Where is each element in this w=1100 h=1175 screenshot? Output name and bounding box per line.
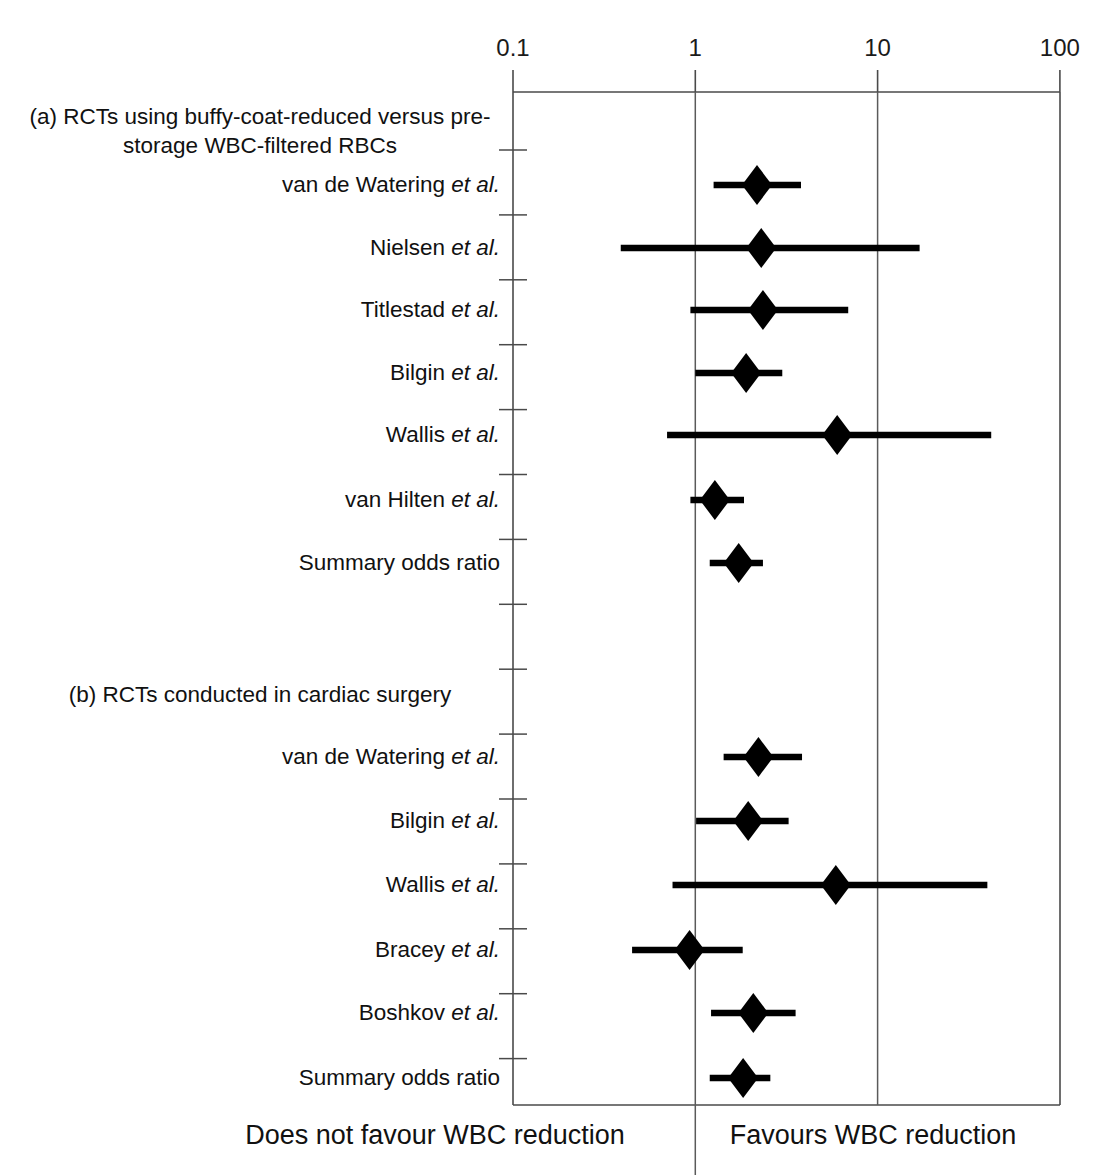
study-name: van de Watering xyxy=(282,172,445,197)
study-diamond xyxy=(743,737,773,777)
section-heading-line1: (b) RCTs conducted in cardiac surgery xyxy=(20,680,500,709)
study-diamond xyxy=(742,165,772,205)
study-suffix: et al. xyxy=(451,297,500,322)
study-suffix: et al. xyxy=(451,422,500,447)
study-label: van de Watering et al. xyxy=(282,171,500,200)
study-label: Bilgin et al. xyxy=(390,359,500,388)
study-label: Wallis et al. xyxy=(386,421,500,450)
summary-diamond xyxy=(728,1058,758,1098)
study-name: Titlestad xyxy=(361,297,445,322)
study-name: Nielsen xyxy=(370,235,445,260)
study-label: Wallis et al. xyxy=(386,871,500,900)
study-name: Bilgin xyxy=(390,360,445,385)
study-suffix: et al. xyxy=(451,172,500,197)
study-label: Boshkov et al. xyxy=(359,999,500,1028)
study-suffix: et al. xyxy=(451,937,500,962)
section-heading-a: (a) RCTs using buffy-coat-reduced versus… xyxy=(20,102,500,161)
footer-label-left: Does not favour WBC reduction xyxy=(245,1120,625,1151)
study-diamond xyxy=(822,415,852,455)
study-name: Wallis xyxy=(386,872,445,897)
study-label: Summary odds ratio xyxy=(299,1064,500,1093)
study-suffix: et al. xyxy=(451,808,500,833)
forest-plot: 0.1110100(a) RCTs using buffy-coat-reduc… xyxy=(0,0,1100,1175)
study-diamond xyxy=(748,290,778,330)
axis-tick-label-100: 100 xyxy=(1040,34,1080,62)
study-label: van de Watering et al. xyxy=(282,743,500,772)
study-label: van Hilten et al. xyxy=(345,486,500,515)
section-heading-line2: storage WBC-filtered RBCs xyxy=(20,131,500,160)
study-label: Bracey et al. xyxy=(375,936,500,965)
section-heading-b: (b) RCTs conducted in cardiac surgery xyxy=(20,680,500,709)
study-diamond xyxy=(733,801,763,841)
study-diamond xyxy=(746,228,776,268)
study-name: Wallis xyxy=(386,422,445,447)
study-suffix: et al. xyxy=(451,1000,500,1025)
study-label: Titlestad et al. xyxy=(361,296,500,325)
study-suffix: et al. xyxy=(451,744,500,769)
axis-tick-label-0.1: 0.1 xyxy=(496,34,529,62)
study-diamond xyxy=(675,930,705,970)
study-label: Bilgin et al. xyxy=(390,807,500,836)
study-label: Nielsen et al. xyxy=(370,234,500,263)
study-name: van de Watering xyxy=(282,744,445,769)
study-suffix: et al. xyxy=(451,235,500,260)
study-label: Summary odds ratio xyxy=(299,549,500,578)
section-heading-line1: (a) RCTs using buffy-coat-reduced versus… xyxy=(20,102,500,131)
study-diamond xyxy=(738,993,768,1033)
study-name: Boshkov xyxy=(359,1000,445,1025)
study-name: Bilgin xyxy=(390,808,445,833)
axis-tick-label-1: 1 xyxy=(689,34,702,62)
study-name: Bracey xyxy=(375,937,445,962)
summary-diamond xyxy=(724,543,754,583)
study-name: Summary odds ratio xyxy=(299,550,500,575)
study-diamond xyxy=(821,865,851,905)
study-diamond xyxy=(700,480,730,520)
study-name: Summary odds ratio xyxy=(299,1065,500,1090)
footer-label-right: Favours WBC reduction xyxy=(730,1120,1017,1151)
study-suffix: et al. xyxy=(451,872,500,897)
study-diamond xyxy=(731,353,761,393)
axis-tick-label-10: 10 xyxy=(864,34,891,62)
forest-plot-canvas xyxy=(0,0,1100,1175)
study-name: van Hilten xyxy=(345,487,445,512)
study-suffix: et al. xyxy=(451,487,500,512)
study-suffix: et al. xyxy=(451,360,500,385)
